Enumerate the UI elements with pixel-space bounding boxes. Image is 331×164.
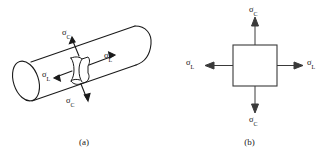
sigma-subscript: C (254, 11, 258, 17)
label-longitudinal-stress-right: σL (104, 51, 112, 62)
sigma-subscript: L (312, 64, 316, 70)
surface-element (71, 57, 90, 84)
cylinder-far-end (135, 26, 151, 65)
caption-panel-a: (a) (0, 137, 168, 147)
arrowhead-longitudinal-left (205, 62, 214, 69)
caption-panel-b: (b) (168, 137, 331, 147)
panel-cylinder: σC σC σL σL (a) (0, 0, 168, 164)
sigma-subscript: C (71, 102, 75, 108)
arrowhead-hoop-down (252, 104, 259, 113)
cylinder-top-edge (31, 26, 135, 62)
sigma-glyph: σ (42, 69, 47, 79)
sigma-glyph: σ (307, 57, 312, 67)
arrowhead-longitudinal-right (294, 62, 303, 69)
element-stress-arrows (205, 17, 303, 113)
arrowhead-hoop-down (84, 93, 90, 101)
panel-stress-element: σC σC σL σL (b) (168, 0, 331, 164)
cylinder-end-cap (8, 58, 44, 105)
label-hoop-stress-top: σC (249, 5, 258, 16)
sigma-glyph: σ (104, 50, 109, 60)
sigma-glyph: σ (62, 27, 67, 37)
stress-element-square (233, 45, 277, 86)
sigma-subscript: L (191, 64, 195, 70)
label-hoop-stress-bottom: σC (249, 115, 258, 126)
cylinder-stress-arrows (54, 37, 115, 101)
label-longitudinal-stress-right: σL (307, 58, 315, 69)
sigma-glyph: σ (186, 57, 191, 67)
cylinder-drawing (0, 0, 168, 137)
stress-figure: σC σC σL σL (a) (0, 0, 331, 164)
sigma-glyph: σ (249, 4, 254, 14)
arrowhead-hoop-up (252, 17, 259, 26)
label-longitudinal-stress-left: σL (186, 58, 194, 69)
label-hoop-stress-bottom: σC (66, 96, 75, 107)
label-hoop-stress-top: σC (62, 28, 71, 39)
arrowhead-longitudinal-left (54, 75, 60, 81)
sigma-subscript: L (47, 76, 51, 82)
sigma-subscript: C (67, 34, 71, 40)
sigma-subscript: C (254, 121, 258, 127)
sigma-subscript: L (109, 57, 113, 63)
label-longitudinal-stress-left: σL (42, 70, 50, 81)
sigma-glyph: σ (249, 114, 254, 124)
sigma-glyph: σ (66, 95, 71, 105)
